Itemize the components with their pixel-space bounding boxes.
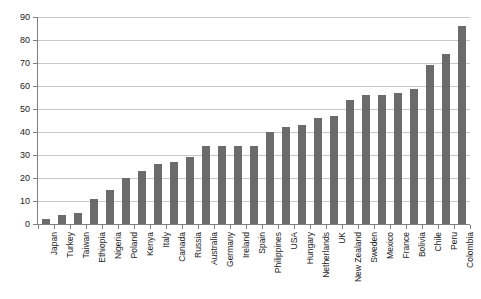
y-tick-label: 70 — [0, 59, 30, 68]
x-tick-label: Mexico — [386, 232, 395, 259]
bar — [442, 54, 450, 224]
x-tick-label: Colombia — [466, 232, 475, 268]
bar — [234, 146, 242, 224]
x-tick-mark — [294, 225, 295, 229]
y-tick-label: 90 — [0, 13, 30, 22]
x-tick-label: Netherlands — [322, 232, 331, 278]
y-tick-label: 50 — [0, 105, 30, 114]
x-tick-mark — [182, 225, 183, 229]
bar — [266, 132, 274, 224]
x-tick-label: Russia — [194, 232, 203, 258]
y-tick-mark — [33, 224, 37, 225]
x-tick-label: Germany — [226, 232, 235, 267]
y-tick-mark — [33, 155, 37, 156]
x-tick-mark — [262, 225, 263, 229]
x-tick-mark — [118, 225, 119, 229]
bar — [346, 100, 354, 224]
y-tick-label: 80 — [0, 36, 30, 45]
x-tick-label: Sweden — [370, 232, 379, 263]
x-tick-label: Nigeria — [114, 232, 123, 259]
bar — [458, 26, 466, 224]
y-tick-mark — [33, 201, 37, 202]
bar — [154, 164, 162, 224]
x-tick-mark — [390, 225, 391, 229]
bar — [394, 93, 402, 224]
bar — [138, 171, 146, 224]
y-tick-mark — [33, 132, 37, 133]
bar — [170, 162, 178, 224]
bar-chart: 0102030405060708090 JapanTurkeyTaiwanEth… — [0, 0, 481, 299]
bar — [426, 65, 434, 224]
x-tick-mark — [342, 225, 343, 229]
bar — [90, 199, 98, 224]
bar — [314, 118, 322, 224]
x-tick-mark — [102, 225, 103, 229]
x-tick-mark — [134, 225, 135, 229]
x-tick-mark — [326, 225, 327, 229]
x-tick-mark — [198, 225, 199, 229]
x-tick-label: Turkey — [66, 232, 75, 258]
bar-series — [38, 17, 470, 224]
y-tick-mark — [33, 86, 37, 87]
x-tick-label: Peru — [450, 232, 459, 250]
bar — [282, 127, 290, 224]
y-tick-mark — [33, 17, 37, 18]
x-tick-mark — [454, 225, 455, 229]
x-tick-mark — [278, 225, 279, 229]
x-tick-label: Ireland — [242, 232, 251, 258]
x-tick-mark — [246, 225, 247, 229]
x-axis-labels: JapanTurkeyTaiwanEthiopiaNigeriaPolandKe… — [38, 232, 481, 296]
x-tick-label: Hungary — [306, 232, 315, 264]
x-tick-mark — [214, 225, 215, 229]
x-tick-label: Ethiopia — [98, 232, 107, 263]
x-tick-label: USA — [290, 232, 299, 249]
x-tick-mark — [438, 225, 439, 229]
y-tick-label: 40 — [0, 128, 30, 137]
x-tick-label: Spain — [258, 232, 267, 254]
bar — [186, 157, 194, 224]
x-tick-label: Canada — [178, 232, 187, 262]
x-tick-label: Chile — [434, 232, 443, 251]
x-tick-mark — [70, 225, 71, 229]
x-tick-mark — [166, 225, 167, 229]
bar — [42, 219, 50, 224]
x-tick-label: Italy — [162, 232, 171, 248]
y-tick-label: 10 — [0, 197, 30, 206]
x-tick-mark — [310, 225, 311, 229]
x-tick-mark — [374, 225, 375, 229]
x-tick-mark — [406, 225, 407, 229]
bar — [378, 95, 386, 224]
y-tick-mark — [33, 63, 37, 64]
x-tick-label: Bolivia — [418, 232, 427, 257]
x-tick-mark — [358, 225, 359, 229]
x-tick-mark — [38, 225, 39, 229]
x-tick-label: UK — [338, 232, 347, 244]
y-tick-mark — [33, 40, 37, 41]
bar — [106, 190, 114, 225]
x-tick-label: New Zealand — [354, 232, 363, 282]
bar — [298, 125, 306, 224]
x-tick-label: Poland — [130, 232, 139, 258]
bar — [74, 213, 82, 225]
x-tick-label: Japan — [50, 232, 59, 255]
y-tick-label: 60 — [0, 82, 30, 91]
x-tick-label: Kenya — [146, 232, 155, 256]
x-tick-label: Taiwan — [82, 232, 91, 258]
y-tick-mark — [33, 109, 37, 110]
x-tick-mark — [86, 225, 87, 229]
x-tick-label: France — [402, 232, 411, 258]
x-tick-mark — [54, 225, 55, 229]
y-tick-label: 20 — [0, 174, 30, 183]
bar — [218, 146, 226, 224]
x-tick-mark — [422, 225, 423, 229]
bar — [202, 146, 210, 224]
x-tick-label: Australia — [210, 232, 219, 265]
bar — [362, 95, 370, 224]
x-tick-mark — [230, 225, 231, 229]
x-tick-label: Philippines — [274, 232, 283, 273]
y-tick-mark — [33, 178, 37, 179]
x-tick-mark — [150, 225, 151, 229]
bar — [250, 146, 258, 224]
bar — [410, 89, 418, 224]
bar — [58, 215, 66, 224]
